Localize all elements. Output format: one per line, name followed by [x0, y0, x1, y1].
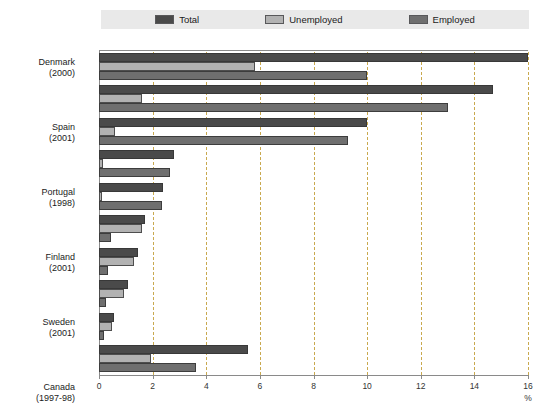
bar-unemployed [99, 159, 103, 168]
bar-employed [99, 331, 104, 340]
bar-total [99, 248, 138, 257]
bar-group: Sweden(2001) [99, 183, 528, 210]
legend-label: Total [179, 15, 199, 25]
bar-unemployed [99, 257, 134, 266]
chart-legend: TotalUnemployedEmployed [101, 10, 529, 29]
category-name: Denmark [38, 57, 75, 68]
bar-employed [99, 201, 162, 210]
bar-unemployed [99, 192, 102, 201]
tick-mark-0 [99, 375, 100, 379]
bar-unemployed [99, 127, 115, 136]
bar-group: Switzerland(2001) [99, 248, 528, 275]
bar-employed [99, 71, 367, 80]
tick-mark-8 [314, 375, 315, 379]
bar-employed [99, 103, 448, 112]
bar-total [99, 53, 528, 62]
legend-entry-unemployed[interactable]: Unemployed [265, 15, 342, 25]
gridline-16 [528, 52, 529, 375]
bar-total [99, 280, 128, 289]
x-tick-label-16: 16 [523, 381, 532, 391]
category-label: Spain(2001) [49, 122, 75, 144]
category-label: Canada(1997-98) [36, 382, 75, 404]
x-tick-label-2: 2 [150, 381, 155, 391]
bar-employed [99, 233, 111, 242]
bar-employed [99, 136, 348, 145]
x-tick-label-6: 6 [258, 381, 263, 391]
category-period: (2001) [45, 263, 75, 274]
x-tick-label-8: 8 [311, 381, 316, 391]
tick-mark-2 [153, 375, 154, 379]
tick-mark-14 [474, 375, 475, 379]
category-name: Portugal [41, 187, 75, 198]
bar-group: United Kingdom(1999-2000) [99, 313, 528, 340]
bar-unemployed [99, 62, 255, 71]
plot-top-rule [99, 50, 528, 51]
chart-container: TotalUnemployedEmployed Denmark(2000)Spa… [0, 0, 547, 410]
bar-unemployed [99, 322, 112, 331]
x-axis-unit-label: % [524, 393, 532, 403]
bar-total [99, 183, 163, 192]
bar-employed [99, 266, 108, 275]
bar-total [99, 215, 145, 224]
bar-unemployed [99, 289, 124, 298]
bar-group: Canada(1997-98) [99, 215, 528, 242]
category-period: (2001) [49, 133, 75, 144]
bar-total [99, 85, 493, 94]
legend-entry-employed[interactable]: Employed [409, 15, 475, 25]
category-period: (1997-98) [36, 393, 75, 404]
legend-entry-total[interactable]: Total [155, 15, 199, 25]
category-period: (1998) [41, 198, 75, 209]
bar-employed [99, 298, 106, 307]
bar-group: Norway(2001) [99, 280, 528, 307]
tick-mark-6 [260, 375, 261, 379]
bar-total [99, 118, 367, 127]
bar-employed [99, 168, 170, 177]
tick-mark-10 [367, 375, 368, 379]
x-tick-label-0: 0 [97, 381, 102, 391]
x-tick-label-4: 4 [204, 381, 209, 391]
category-label: Denmark(2000) [38, 57, 75, 79]
bar-unemployed [99, 224, 142, 233]
bar-group: Portugal(1998) [99, 118, 528, 145]
category-label: Portugal(1998) [41, 187, 75, 209]
legend-swatch-icon [155, 15, 174, 24]
bar-group: Unweighted average(9 countries) [99, 345, 528, 372]
category-label: Sweden(2001) [42, 317, 75, 339]
legend-swatch-icon [265, 15, 284, 24]
category-name: Sweden [42, 317, 75, 328]
tick-mark-4 [206, 375, 207, 379]
category-name: Spain [49, 122, 75, 133]
bar-unemployed [99, 354, 151, 363]
bar-group: Finland(2001) [99, 150, 528, 177]
bar-total [99, 150, 174, 159]
category-period: (2000) [38, 68, 75, 79]
x-tick-label-12: 12 [416, 381, 425, 391]
tick-mark-12 [421, 375, 422, 379]
legend-label: Unemployed [289, 15, 342, 25]
category-period: (2001) [42, 328, 75, 339]
bar-total [99, 345, 248, 354]
x-tick-label-14: 14 [470, 381, 479, 391]
category-label: Finland(2001) [45, 252, 75, 274]
tick-mark-16 [528, 375, 529, 379]
legend-swatch-icon [409, 15, 428, 24]
bar-total [99, 313, 114, 322]
plot-area: Denmark(2000)Spain(2001)Portugal(1998)Fi… [99, 50, 528, 375]
bar-employed [99, 363, 196, 372]
legend-label: Employed [433, 15, 475, 25]
x-tick-label-10: 10 [362, 381, 371, 391]
bar-group: Denmark(2000) [99, 53, 528, 80]
category-name: Canada [36, 382, 75, 393]
bar-unemployed [99, 94, 142, 103]
bar-group: Spain(2001) [99, 85, 528, 112]
category-name: Finland [45, 252, 75, 263]
